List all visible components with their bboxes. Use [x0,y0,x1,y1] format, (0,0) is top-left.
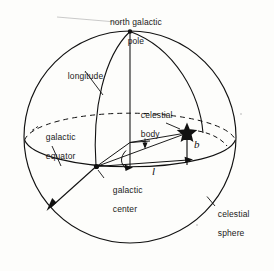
celestial-sphere-label: celestial sphere [208,200,249,248]
north-galactic-pole-label-line1: north galactic [110,17,162,27]
galactic-center-label: galactic center [103,176,142,224]
galactic-longitude-symbol-text: l [152,165,155,177]
celestial-sphere-label-line1: celestial [218,209,250,219]
celestial-body-label-line1: celestial [141,110,173,120]
galactic-equator-label-line2: equator [46,151,76,161]
galactic-center-label-line2: center [113,204,137,214]
scan-speck [240,113,242,115]
longitude-angle-arrowhead [124,165,133,171]
celestial-body-label: celestial body [131,101,172,149]
galactic-coordinates-diagram: north galactic pole longitude galactic e… [0,0,274,271]
longitude-label: longitude [58,62,103,91]
celestial-body-label-line2: body [141,129,160,139]
scan-speck [196,224,198,226]
longitude-label-text: longitude [68,71,103,81]
galactic-equator-label-line1: galactic [46,132,76,142]
anticenter-arrow-line [51,168,95,208]
galactic-center-label-line1: galactic [113,185,143,195]
galactic-latitude-symbol-text: b [194,138,200,150]
north-galactic-pole-label-line2: pole [128,36,144,46]
reference-direction-line [97,143,131,167]
galactic-latitude-symbol: b [194,138,200,150]
galactic-equator-label: galactic equator [36,123,75,171]
galactic-longitude-symbol: l [152,165,155,177]
north-galactic-pole-label: north galactic pole [79,8,183,56]
celestial-sphere-label-line2: sphere [218,228,245,238]
